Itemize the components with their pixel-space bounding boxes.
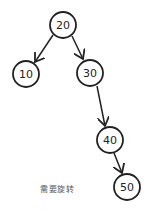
node-label-40: 40 — [103, 134, 117, 147]
node-label-30: 30 — [83, 67, 97, 80]
edge-40-50 — [114, 153, 122, 173]
edge-30-40 — [97, 86, 105, 126]
node-20: 20 — [50, 12, 76, 38]
edge-20-30 — [72, 36, 83, 59]
node-label-10: 10 — [19, 68, 33, 81]
node-50: 50 — [114, 174, 140, 200]
tree-diagram: 20 10 30 40 50 — [0, 0, 157, 211]
node-label-50: 50 — [120, 181, 134, 194]
node-30: 30 — [77, 60, 103, 86]
node-label-20: 20 — [56, 19, 70, 32]
node-10: 10 — [13, 61, 39, 87]
node-40: 40 — [97, 127, 123, 153]
caption: 需要旋转 — [40, 183, 74, 194]
edge-20-10 — [35, 35, 53, 62]
